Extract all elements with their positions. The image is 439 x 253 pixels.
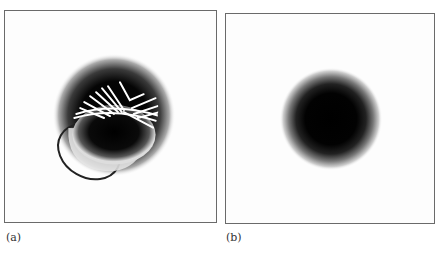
panel-a-plot: [5, 11, 216, 222]
panel-a: [4, 10, 217, 223]
panel-a-label: (a): [6, 231, 21, 244]
panel-b: [225, 13, 435, 224]
panel-b-plot: [226, 14, 434, 223]
gaussian-blob: [279, 67, 382, 170]
panel-b-label: (b): [226, 231, 242, 244]
